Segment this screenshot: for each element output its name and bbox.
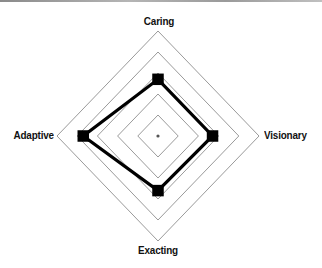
axis-label-exacting: Exacting xyxy=(138,244,178,256)
axis-label-adaptive: Adaptive xyxy=(14,129,54,141)
axis-label-caring: Caring xyxy=(144,15,174,27)
data-point-marker-visionary xyxy=(207,130,219,142)
center-dot xyxy=(156,134,159,137)
data-point-marker-exacting xyxy=(152,185,164,197)
axis-label-visionary: Visionary xyxy=(264,129,307,141)
series-line xyxy=(83,79,212,190)
data-point-marker-adaptive xyxy=(78,130,90,142)
data-point-marker-caring xyxy=(152,74,164,86)
